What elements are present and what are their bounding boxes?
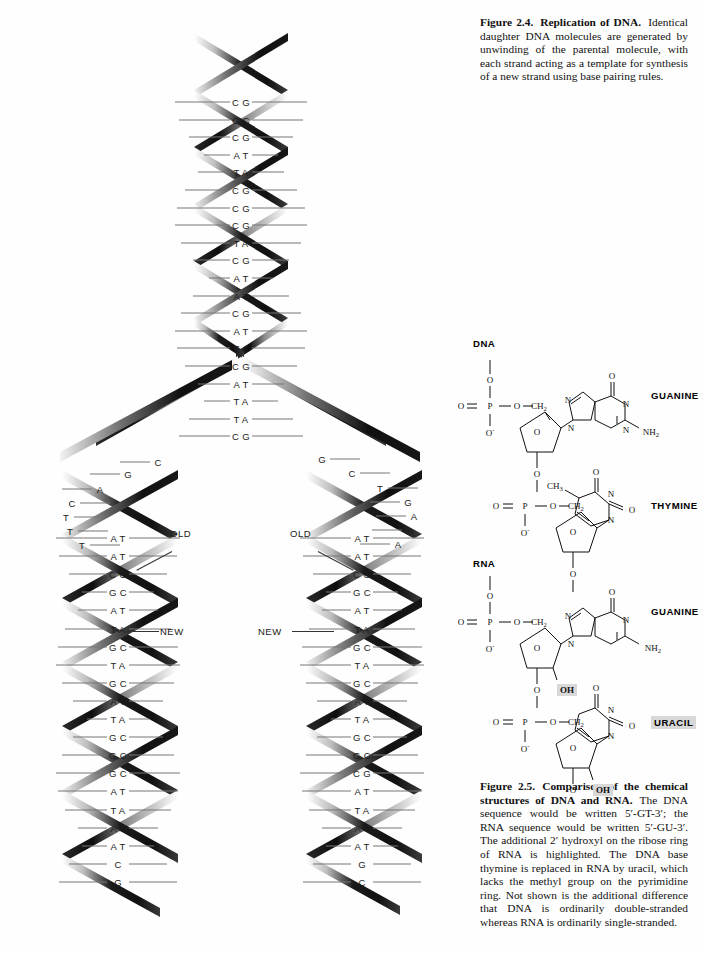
daughter-left-tick-right	[129, 827, 158, 828]
fork-right-tick	[388, 488, 418, 489]
daughter-left-tick-left	[73, 737, 107, 738]
fork-left-base: A	[97, 484, 104, 495]
parent-base-pair: T A	[234, 343, 249, 354]
daughter-left-base-pair: G C	[109, 768, 127, 779]
parent-tick-left	[175, 330, 230, 331]
fork-left-base: T	[79, 540, 85, 551]
daughter-left-tick-left	[59, 881, 107, 882]
parent-base-pair: C G	[232, 361, 250, 372]
parent-base-pair: C G	[232, 132, 250, 143]
daughter-left-base-pair: A T	[111, 786, 126, 797]
daughter-right-tick-right	[373, 664, 424, 665]
parent-tick-right	[252, 119, 303, 120]
daughter-right-base-pair: G C	[353, 732, 371, 743]
daughter-left-base-pair: C	[114, 858, 121, 869]
daughter-right-base-pair: C	[358, 876, 365, 887]
fork-left-base: T	[63, 512, 69, 523]
parent-base-pair: T A	[234, 167, 249, 178]
daughter-right-tick-left	[306, 682, 351, 683]
rna-atom-n1-uracil: N	[608, 731, 615, 741]
parent-tick-right	[252, 278, 273, 279]
parent-tick-right	[252, 295, 289, 296]
parent-base-pair: A T	[234, 290, 249, 301]
atom-o-double: O	[458, 401, 465, 411]
dna-heading: DNA	[473, 338, 495, 349]
daughter-left-tick-right	[129, 845, 154, 846]
daughter-left-base-pair: G C	[109, 732, 127, 743]
figure-2-5-label: Figure 2.5.	[480, 780, 535, 792]
parent-tick-left	[179, 119, 230, 120]
fork-left-tick	[120, 462, 150, 463]
daughter-left-tick-left	[82, 592, 107, 593]
daughter-left-tick-right	[129, 863, 167, 864]
atom-o-double-2: O	[493, 501, 500, 511]
daughter-right-tick-left	[302, 646, 351, 647]
rna-atom-o-ester-2: O	[550, 717, 557, 727]
daughter-left-tick-left	[56, 773, 107, 774]
atom-o-minus: O-	[486, 426, 495, 438]
parent-tick-left	[175, 225, 230, 226]
atom-n1-thymine: N	[608, 515, 615, 525]
rna-atom-o-double-2: O	[493, 717, 500, 727]
daughter-right-tick-left	[302, 791, 351, 792]
rna-atom-n1: N	[623, 615, 630, 625]
parent-tick-right	[252, 260, 289, 261]
daughter-right-tick-right	[373, 628, 415, 629]
atom-ch2-2: CH2	[568, 501, 584, 512]
parent-tick-left	[204, 401, 230, 402]
textbook-page: C GG CC GA TT AC GC GC GT AC GA TA TC GA…	[0, 0, 702, 953]
parent-base-pair: A T	[234, 325, 249, 336]
daughter-left-tick-left	[62, 682, 107, 683]
daughter-right-tick-left	[300, 773, 351, 774]
parent-tick-right	[252, 137, 293, 138]
daughter-right-tick-right	[373, 610, 402, 611]
figure-2-5-body: The DNA sequence would be written 5′-GT-…	[480, 794, 688, 928]
atom-p: P	[487, 401, 492, 411]
daughter-left-base-pair: T A	[111, 659, 126, 670]
rna-hydroxyl-1-wrap: OH	[557, 685, 577, 695]
daughter-right-base-pair: A T	[355, 695, 370, 706]
daughter-right-tick-left	[322, 610, 351, 611]
parent-base-pair: A T	[234, 378, 249, 389]
daughter-right-base-pair: C G	[353, 768, 371, 779]
daughter-right-tick-right	[373, 827, 402, 828]
rna-hydroxyl-1: OH	[557, 684, 577, 696]
daughter-right-tick-left	[317, 737, 351, 738]
figure-2-4-caption: Figure 2.4.Replication of DNA.Identical …	[480, 16, 688, 84]
figure-2-5-caption: Figure 2.5.Comparison of the chemical st…	[480, 780, 688, 930]
rna-atom-o-minus-2: O-	[521, 742, 530, 754]
parent-tick-right	[252, 418, 293, 419]
rna-atom-n3-uracil: N	[608, 705, 615, 715]
daughter-left-tick-left	[59, 556, 107, 557]
atom-n3-thymine: N	[608, 489, 615, 499]
atom-nh2: NH2	[643, 427, 659, 438]
parent-tick-left	[204, 154, 230, 155]
parent-tick-right	[252, 436, 303, 437]
rna-atom-o4-uracil: O	[593, 683, 600, 693]
daughter-right-base-pair: A T	[355, 605, 370, 616]
label-new-right: NEW	[258, 626, 282, 637]
daughter-right-tick-right	[373, 881, 421, 882]
rna-atom-o-3prime: O	[534, 685, 541, 695]
daughter-left-tick-right	[129, 574, 167, 575]
fork-right-tick	[360, 473, 390, 474]
daughter-left-base-pair: T A	[111, 714, 126, 725]
parent-tick-left	[209, 278, 230, 279]
parent-base-pair: T A	[234, 396, 249, 407]
atom-ch2: CH2	[531, 401, 547, 412]
fork-right-base: C	[348, 468, 355, 479]
daughter-right-base-pair: G	[358, 858, 366, 869]
rna-base-uracil: URACIL	[651, 716, 696, 729]
parent-base-pair: C G	[232, 255, 250, 266]
atom-o6: O	[609, 371, 616, 381]
parent-base-pair: C G	[232, 431, 250, 442]
parent-base-pair: C G	[232, 202, 250, 213]
fork-left-base: G	[124, 469, 132, 480]
daughter-left-tick-right	[129, 773, 180, 774]
dna-base-guanine: GUANINE	[651, 390, 699, 401]
atom-o-ester-2: O	[550, 501, 557, 511]
parent-tick-right	[252, 313, 301, 314]
daughter-left-tick-left	[78, 827, 107, 828]
ring-o-2: O	[570, 527, 577, 537]
daughter-right-base-pair: C G	[353, 569, 371, 580]
